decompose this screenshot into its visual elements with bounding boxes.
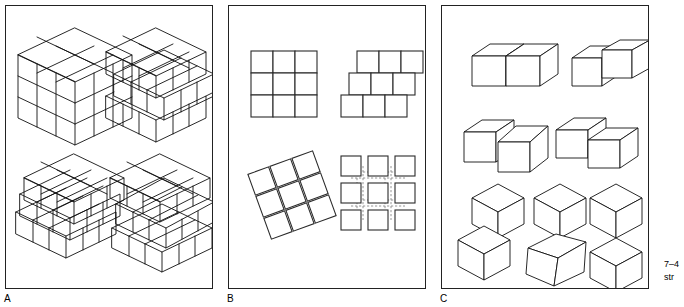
cube-offset-layers-right [106,28,212,142]
panel-a [5,5,213,289]
panel-c [441,5,649,289]
caption-line-2: str [664,271,679,284]
figure-caption: 7–4 str [664,258,679,284]
panel-label-a: A [4,294,11,304]
panel-c-canvas [442,6,648,288]
panel-label-c: C [440,294,447,304]
grid-rotated-tiles [248,151,336,239]
caption-line-1: 7–4 [664,258,679,271]
grid-aligned-3x3 [251,51,317,117]
panel-b [228,5,426,289]
panel-b-canvas [229,6,425,288]
pair-stacked-offset [458,184,524,280]
pair-stacked-rotated [526,184,586,286]
cube-split-layers [110,154,212,272]
cube-staircase-offset [16,154,124,258]
grid-separated-dashed [341,156,415,230]
pair-side-by-side-flush [472,44,558,86]
figure-root: A [0,0,684,307]
pair-offset-depth [556,118,638,168]
panel-label-b: B [227,294,234,304]
pair-overlap-front [464,120,548,172]
grid-brick-offset [341,51,423,117]
pair-side-by-side-raised [572,40,648,86]
pair-stacked-point-contact [590,184,642,288]
panel-a-canvas [6,6,212,288]
cube-aligned-3x3x3 [18,28,132,145]
